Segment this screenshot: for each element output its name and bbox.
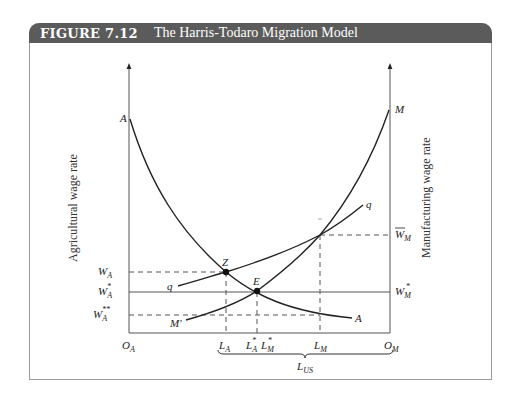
curve-mm xyxy=(186,110,389,320)
harris-todaro-diagram: A A M M' q q Z E WA WA* WA** WM WM* OA O… xyxy=(0,0,518,402)
label-e: E xyxy=(252,275,260,287)
label-z: Z xyxy=(222,256,229,268)
label-wa-star: WA* xyxy=(98,282,112,300)
label-a-top: A xyxy=(119,112,127,124)
label-la-star: LA* xyxy=(245,336,257,354)
label-a-end: A xyxy=(354,312,362,324)
label-wa-dstar: WA** xyxy=(93,305,110,323)
label-lus: LUS xyxy=(296,360,313,375)
label-wa: WA xyxy=(98,265,112,280)
label-wm-star: WM* xyxy=(395,282,412,300)
label-q-end: q xyxy=(366,198,372,210)
label-lm-star: LM* xyxy=(260,336,275,354)
label-wm-bar: WM xyxy=(395,228,412,243)
label-origin-m: OM xyxy=(384,339,400,354)
label-lm: LM xyxy=(313,339,328,354)
left-axis-title: Agricultural wage rate xyxy=(66,154,80,262)
label-q-start: q xyxy=(167,280,173,292)
label-m-top: M xyxy=(394,103,405,115)
label-origin-a: OA xyxy=(122,339,135,354)
curve-qq xyxy=(178,205,363,286)
label-m-prime: M' xyxy=(169,317,182,329)
point-e xyxy=(254,288,260,294)
right-axis-title: Manufacturing wage rate xyxy=(419,137,433,258)
label-la: LA xyxy=(218,339,230,354)
lus-brace xyxy=(218,350,393,358)
point-z xyxy=(223,269,229,275)
